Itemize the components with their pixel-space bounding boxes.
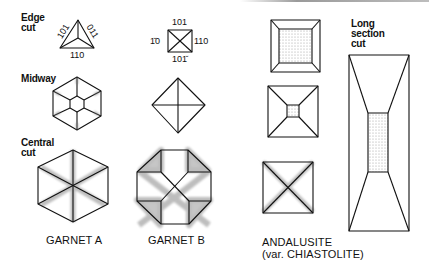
andalusite-square-large-core [271,20,320,72]
long-section-cut-label: Long section cut [351,19,385,49]
garnet-b-index-top: 101 [172,18,187,27]
garnet-a-index-bottom: 110 [70,51,84,60]
garnet-a-caption: GARNET A [46,234,102,246]
garnet-b-index-right: 110 [194,37,208,46]
andalusite-caption-line1: ANDALUSITE [262,236,332,248]
garnet-b-index-bottom: 101̆ [172,55,187,64]
andalusite-chiastolite-cross [263,162,313,213]
garnet-b-caption: GARNET B [148,234,205,246]
garnet-a-central-cut-hexagon [38,150,108,222]
garnet-a-midway-hexagon [53,77,101,130]
andalusite-square-small-core [268,86,318,137]
andalusite-caption-line2: (var. CHIASTOLITE) [262,248,364,260]
andalusite-long-section [349,55,409,231]
garnet-b-index-left: 1̆0 [150,37,160,46]
garnet-b-edge-cut-square [168,30,192,52]
garnet-b-midway-rhombus [152,78,205,133]
